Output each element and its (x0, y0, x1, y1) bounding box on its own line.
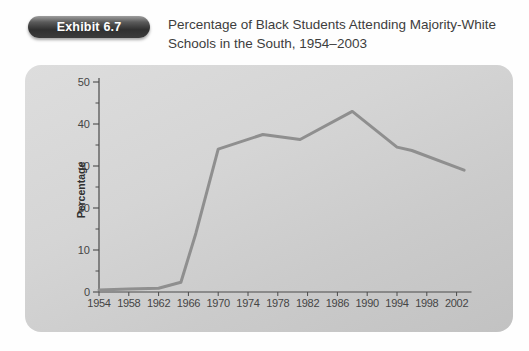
x-tick-label: 1962 (147, 297, 170, 309)
x-tick-label: 1978 (266, 297, 289, 309)
figure-exhibit-6-7: Exhibit 6.7 Percentage of Black Students… (0, 0, 529, 351)
x-tick-label: 1986 (326, 297, 349, 309)
x-tick-label: 1958 (117, 297, 140, 309)
x-tick-label: 1970 (207, 297, 230, 309)
x-tick-label: 2002 (445, 297, 468, 309)
x-tick-label: 1982 (296, 297, 319, 309)
y-tick-label: 40 (78, 118, 90, 130)
x-tick-label: 1954 (87, 297, 110, 309)
y-tick-label: 10 (78, 244, 90, 256)
x-tick-label: 1994 (385, 297, 408, 309)
x-tick-label: 1990 (356, 297, 379, 309)
y-axis-label: Percentage (75, 162, 87, 219)
data-series-line (99, 111, 464, 290)
x-tick-label: 1974 (236, 297, 259, 309)
x-tick-label: 1966 (177, 297, 200, 309)
y-tick-label: 50 (78, 76, 90, 88)
line-chart: 0102030405019541958196219661970197419781… (0, 0, 529, 351)
x-tick-label: 1998 (415, 297, 438, 309)
